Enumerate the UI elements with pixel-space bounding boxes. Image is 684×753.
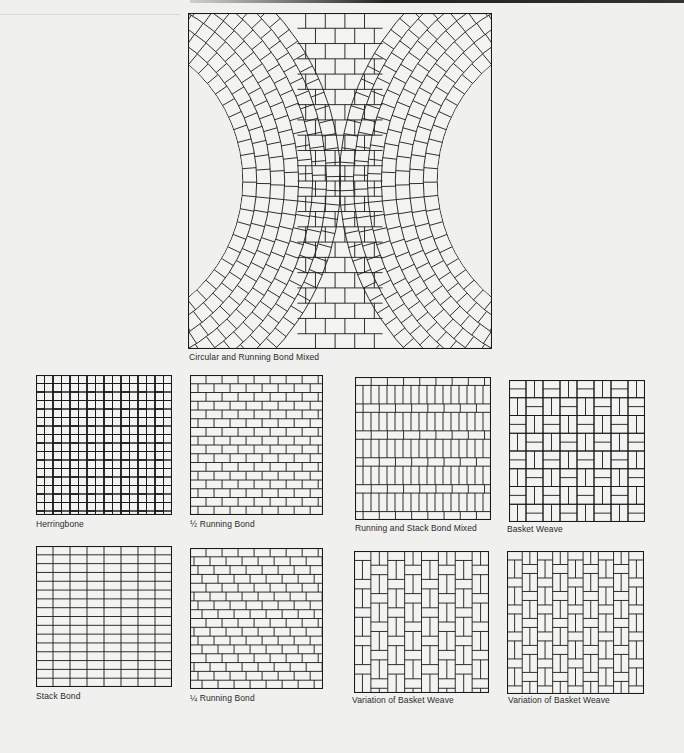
caption-variation-basket-weave-1: Variation of Basket Weave xyxy=(352,695,454,705)
caption-variation-basket-weave-2: Variation of Basket Weave xyxy=(508,695,610,705)
pattern-herringbone-diagram xyxy=(36,375,172,515)
pattern-basket-weave-diagram xyxy=(509,380,645,522)
pattern-variation-basket-1-diagram xyxy=(354,551,489,693)
caption-basket-weave: Basket Weave xyxy=(507,524,563,534)
figure-herringbone xyxy=(36,375,172,515)
figure-circular-running xyxy=(188,13,492,349)
caption-stack-bond: Stack Bond xyxy=(36,691,80,701)
pattern-half-running-diagram xyxy=(190,375,323,515)
pattern-quarter-running-diagram xyxy=(190,548,323,689)
pattern-stack-bond-diagram xyxy=(36,546,172,687)
pattern-circular-running-diagram xyxy=(188,13,492,349)
caption-running-stack-mixed: Running and Stack Bond Mixed xyxy=(355,523,477,533)
figure-variation-basket-weave-1 xyxy=(354,551,489,693)
pattern-running-stack-diagram xyxy=(355,377,491,520)
top-rule xyxy=(0,14,180,15)
caption-quarter-running-bond: ¼ Running Bond xyxy=(190,693,255,703)
figure-running-stack-mixed xyxy=(355,377,491,520)
caption-half-running-bond: ½ Running Bond xyxy=(190,519,255,529)
pattern-variation-basket-2-diagram xyxy=(507,551,644,694)
top-bar xyxy=(190,0,684,3)
figure-stack-bond xyxy=(36,546,172,687)
caption-herringbone: Herringbone xyxy=(36,519,84,529)
figure-half-running-bond xyxy=(190,375,323,515)
figure-quarter-running-bond xyxy=(190,548,323,689)
figure-basket-weave xyxy=(509,380,645,522)
figure-variation-basket-weave-2 xyxy=(507,551,644,694)
caption-circular-running: Circular and Running Bond Mixed xyxy=(189,352,319,362)
